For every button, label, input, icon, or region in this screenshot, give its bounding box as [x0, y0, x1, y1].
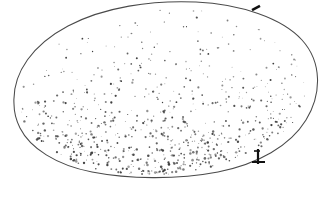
oval-stipple-figure	[0, 0, 336, 201]
figure-background	[0, 0, 336, 201]
figure-root	[0, 0, 336, 201]
